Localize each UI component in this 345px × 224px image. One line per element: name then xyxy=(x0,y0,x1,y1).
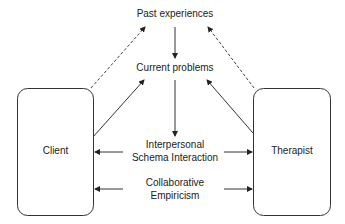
interpersonal-label-2: Schema Interaction xyxy=(115,152,235,164)
therapist-to-past-arrow xyxy=(208,27,254,88)
therapist-to-current-arrow xyxy=(207,80,253,133)
collaborative-label-2: Empiricism xyxy=(115,190,235,202)
interpersonal-label-1: Interpersonal xyxy=(115,139,235,151)
collaborative-label-1: Collaborative xyxy=(115,177,235,189)
client-to-current-arrow xyxy=(93,80,144,137)
current-problems-label: Current problems xyxy=(125,62,225,74)
therapist-label: Therapist xyxy=(253,145,331,157)
client-label: Client xyxy=(17,145,94,157)
client-to-past-arrow xyxy=(91,27,145,88)
past-experiences-label: Past experiences xyxy=(125,8,225,20)
